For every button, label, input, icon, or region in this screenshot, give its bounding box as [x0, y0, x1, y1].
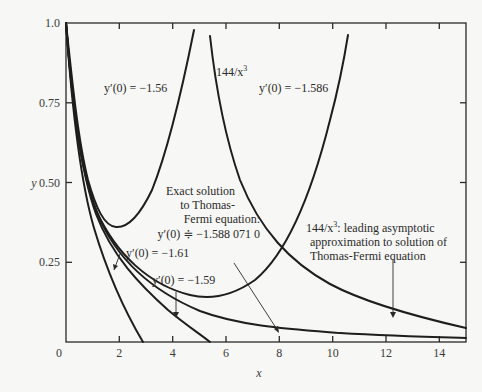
x-tick-12: 12 [380, 346, 392, 360]
svg-text:Thomas-Fermi equation: Thomas-Fermi equation [310, 249, 426, 263]
annotation-yp0-1.59: y′(0) = −1.59 [152, 273, 215, 287]
y-tick-0.75: 0.75 [39, 96, 60, 110]
annotation-144-over-x3-top: 144/x3 [216, 64, 247, 79]
annotation-yp0-1.56-full: y′(0) = −1.56 [104, 81, 167, 95]
svg-text:y′(0) ≑ −1.588 071 0: y′(0) ≑ −1.588 071 0 [158, 227, 260, 241]
x-tick-2: 2 [116, 346, 122, 360]
svg-text:Exact solution: Exact solution [166, 184, 235, 198]
x-tick-14: 14 [433, 346, 445, 360]
x-tick-6: 6 [223, 346, 229, 360]
thomas-fermi-chart: 1.0 0.75 0.50 0.25 y 0 2 4 6 8 10 12 14 … [0, 0, 482, 392]
plot-frame [66, 23, 466, 342]
x-tick-0: 0 [56, 346, 62, 360]
svg-text:144/x3: leading asymptotic: 144/x3: leading asymptotic [306, 220, 435, 235]
svg-text:Fermi equation:: Fermi equation: [184, 212, 260, 226]
svg-text:approximation to solution of: approximation to solution of [310, 235, 447, 249]
svg-text:to Thomas-: to Thomas- [180, 198, 235, 212]
x-tick-4: 4 [170, 346, 176, 360]
curve-yp0-minus-1.586 [66, 23, 348, 297]
annotation-yp0-1.586: y′(0) = −1.586 [259, 81, 328, 95]
x-tick-10: 10 [327, 346, 339, 360]
x-axis-label: x [255, 366, 262, 380]
curve-exact-solution [66, 23, 466, 338]
y-axis-label: y [30, 176, 37, 190]
annotation-arrows [113, 254, 396, 333]
x-tick-8: 8 [276, 346, 282, 360]
annotation-asymptotic: 144/x3: leading asymptotic approximation… [306, 220, 447, 263]
y-tick-1.0: 1.0 [45, 16, 60, 30]
y-tick-0.25: 0.25 [39, 255, 60, 269]
y-tick-0.50: 0.50 [39, 176, 60, 190]
curve-yp0-minus-1.61 [66, 23, 143, 342]
annotation-yp0-1.61: y′(0) = −1.61 [126, 246, 189, 260]
